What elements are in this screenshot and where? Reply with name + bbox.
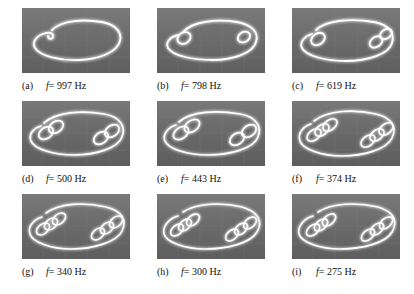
frequency-equals: = <box>184 80 190 91</box>
caption-g: (g) f= 340 Hz <box>22 264 86 279</box>
top-spacer <box>0 0 414 8</box>
panel-frequency-d: f= 500 Hz <box>46 171 86 186</box>
frequency-unit: Hz <box>344 80 356 91</box>
figure-row-2: (d) f= 500 Hz <box>0 101 414 186</box>
panel-g: (g) f= 340 Hz <box>22 194 140 279</box>
panel-tag-c: (c) <box>292 78 316 93</box>
frequency-value: 798 <box>192 80 207 91</box>
panel-frequency-i: f= 275 Hz <box>316 264 356 279</box>
caption-c: (c) f= 619 Hz <box>292 78 356 93</box>
figure-row-1: (a) f= 997 Hz <box>0 8 414 93</box>
oscilloscope-screen-e <box>157 101 265 166</box>
frequency-equals: = <box>49 266 55 277</box>
frequency-equals: = <box>319 266 325 277</box>
frequency-equals: = <box>319 80 325 91</box>
frequency-equals: = <box>184 266 190 277</box>
panel-tag-d: (d) <box>22 171 46 186</box>
panel-frequency-h: f= 300 Hz <box>181 264 221 279</box>
panel-a: (a) f= 997 Hz <box>22 8 140 93</box>
frequency-unit: Hz <box>344 266 356 277</box>
panel-tag-g: (g) <box>22 264 46 279</box>
oscilloscope-screen-a <box>22 8 130 73</box>
oscilloscope-screen-i <box>292 194 400 259</box>
panel-frequency-e: f= 443 Hz <box>181 171 221 186</box>
panel-f: (f) f= 374 Hz <box>292 101 410 186</box>
frequency-value: 500 <box>57 173 72 184</box>
oscilloscope-screen-d <box>22 101 130 166</box>
phase-portrait-d <box>22 101 130 166</box>
frequency-value: 443 <box>192 173 207 184</box>
oscilloscope-screen-h <box>157 194 265 259</box>
panel-frequency-g: f= 340 Hz <box>46 264 86 279</box>
frequency-unit: Hz <box>74 173 86 184</box>
frequency-value: 340 <box>57 266 72 277</box>
oscilloscope-screen-g <box>22 194 130 259</box>
frequency-value: 300 <box>192 266 207 277</box>
frequency-unit: Hz <box>74 80 86 91</box>
phase-portrait-h <box>157 194 265 259</box>
panel-tag-e: (e) <box>157 171 181 186</box>
panel-tag-h: (h) <box>157 264 181 279</box>
frequency-value: 997 <box>57 80 72 91</box>
phase-portrait-i <box>292 194 400 259</box>
phase-portrait-g <box>22 194 130 259</box>
frequency-value: 275 <box>327 266 342 277</box>
frequency-unit: Hz <box>209 266 221 277</box>
panel-frequency-b: f= 798 Hz <box>181 78 221 93</box>
frequency-equals: = <box>49 173 55 184</box>
caption-d: (d) f= 500 Hz <box>22 171 86 186</box>
caption-i: (i) f= 275 Hz <box>292 264 356 279</box>
phase-portrait-e <box>157 101 265 166</box>
frequency-value: 619 <box>327 80 342 91</box>
panel-frequency-c: f= 619 Hz <box>316 78 356 93</box>
figure-row-3: (g) f= 340 Hz <box>0 194 414 279</box>
panel-h: (h) f= 300 Hz <box>157 194 275 279</box>
phase-portrait-c <box>292 8 400 73</box>
phase-portrait-a <box>22 8 130 73</box>
panel-b: (b) f= 798 Hz <box>157 8 275 93</box>
panel-i: (i) f= 275 Hz <box>292 194 410 279</box>
oscilloscope-screen-b <box>157 8 265 73</box>
caption-h: (h) f= 300 Hz <box>157 264 221 279</box>
oscilloscope-screen-c <box>292 8 400 73</box>
frequency-unit: Hz <box>209 173 221 184</box>
frequency-value: 374 <box>327 173 342 184</box>
oscilloscope-screen-f <box>292 101 400 166</box>
frequency-equals: = <box>49 80 55 91</box>
panel-frequency-f: f= 374 Hz <box>316 171 356 186</box>
panel-tag-f: (f) <box>292 171 316 186</box>
panel-frequency-a: f= 997 Hz <box>46 78 86 93</box>
caption-f: (f) f= 374 Hz <box>292 171 356 186</box>
row-gap-2 <box>0 186 414 194</box>
panel-tag-a: (a) <box>22 78 46 93</box>
panel-tag-i: (i) <box>292 264 316 279</box>
phase-portrait-b <box>157 8 265 73</box>
panel-d: (d) f= 500 Hz <box>22 101 140 186</box>
caption-a: (a) f= 997 Hz <box>22 78 86 93</box>
caption-e: (e) f= 443 Hz <box>157 171 221 186</box>
frequency-unit: Hz <box>344 173 356 184</box>
frequency-unit: Hz <box>74 266 86 277</box>
frequency-unit: Hz <box>209 80 221 91</box>
frequency-equals: = <box>319 173 325 184</box>
caption-b: (b) f= 798 Hz <box>157 78 221 93</box>
panel-c: (c) f= 619 Hz <box>292 8 410 93</box>
figure-panel-grid: (a) f= 997 Hz <box>0 0 414 294</box>
row-gap-1 <box>0 93 414 101</box>
frequency-equals: = <box>184 173 190 184</box>
panel-tag-b: (b) <box>157 78 181 93</box>
phase-portrait-f <box>292 101 400 166</box>
panel-e: (e) f= 443 Hz <box>157 101 275 186</box>
